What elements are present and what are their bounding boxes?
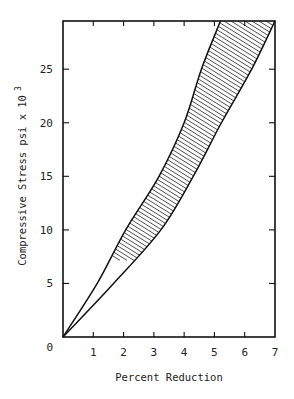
x-axis-title: Percent Reduction [115, 371, 222, 383]
y-axis-title: Compressive Stress psi x 103 [14, 86, 28, 266]
x-tick-label: 1 [90, 346, 97, 359]
y-tick-label: 25 [40, 63, 53, 76]
hatched-band [0, 0, 294, 260]
stress-reduction-chart: 1234567 0510152025 Percent Reduction Com… [0, 0, 294, 399]
x-tick-label: 5 [211, 346, 218, 359]
y-tick-label: 10 [40, 224, 53, 237]
axis-ticks [63, 21, 275, 337]
x-tick-label: 3 [151, 346, 158, 359]
x-tick-label: 6 [241, 346, 248, 359]
y-tick-label: 20 [40, 117, 53, 130]
y-tick-label: 5 [46, 277, 53, 290]
y-tick-labels: 0510152025 [40, 63, 53, 354]
x-tick-label: 4 [181, 346, 188, 359]
plot-frame [63, 21, 275, 337]
y-tick-label: 0 [46, 341, 53, 354]
x-tick-label: 7 [272, 346, 279, 359]
x-tick-labels: 1234567 [90, 346, 278, 359]
upper-bound-curve [63, 21, 220, 337]
y-tick-label: 15 [40, 170, 53, 183]
x-tick-label: 2 [120, 346, 127, 359]
lower-bound-curve [63, 21, 275, 337]
